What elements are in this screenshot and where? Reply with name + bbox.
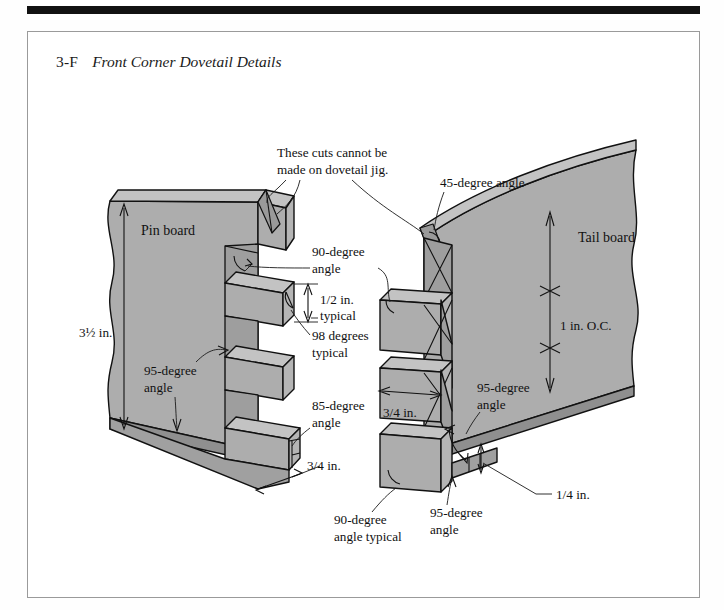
note-jig-line1: These cuts cannot be: [277, 145, 387, 160]
dovetail-illustration: 3½ in. 3/4 in. 1/2 in. typical 3/4 in.: [0, 0, 724, 610]
angle-95-bottom-line1: 95-degree: [430, 505, 483, 520]
figure-page: 3-FFront Corner Dovetail Details: [0, 0, 724, 610]
dim-half-line1: 1/2 in.: [320, 292, 354, 307]
angle-45-label: 45-degree angle: [440, 175, 525, 190]
pin-board-group: [108, 190, 300, 489]
angle-95-bottom-line2: angle: [430, 522, 459, 537]
dim-3-half-label: 3½ in.: [79, 325, 112, 340]
dim-34-left-label: 3/4 in.: [307, 458, 341, 473]
dim-34-right-label: 3/4 in.: [383, 405, 417, 420]
dim-half-line2: typical: [320, 308, 356, 323]
dim-half-in: 1/2 in. typical: [294, 284, 356, 323]
angle-95-right-line1: 95-degree: [477, 380, 530, 395]
dim-1in-oc-label: 1 in. O.C.: [560, 318, 612, 333]
angle-85-line1: 85-degree: [312, 398, 365, 413]
angle-95-left-line1: 95-degree: [144, 363, 197, 378]
note-jig-line2: made on dovetail jig.: [277, 162, 388, 177]
angle-90-line2: angle: [312, 261, 341, 276]
angle-85-line2: angle: [312, 415, 341, 430]
angle-98-line1: 98 degrees: [312, 328, 369, 343]
angle-95-right-line2: angle: [477, 397, 506, 412]
pin-board-label: Pin board: [141, 223, 195, 238]
angle-95-left-line2: angle: [144, 380, 173, 395]
tail-board-face: [424, 150, 638, 452]
dim-quarter-label: 1/4 in.: [556, 487, 590, 502]
tail-3-front-face: [380, 434, 441, 492]
tail-board-group: [380, 140, 638, 492]
callout-angle-90-typ: 90-degree angle typical: [334, 488, 402, 544]
angle-90-typ-line1: 90-degree: [334, 512, 387, 527]
callout-angle-85: 85-degree angle: [292, 398, 365, 446]
angle-90-typ-line2: angle typical: [334, 529, 402, 544]
tail-board-label: Tail board: [578, 230, 635, 245]
angle-90-line1: 90-degree: [312, 244, 365, 259]
pin-board-top-surface: [110, 190, 266, 202]
angle-98-line2: typical: [312, 345, 348, 360]
